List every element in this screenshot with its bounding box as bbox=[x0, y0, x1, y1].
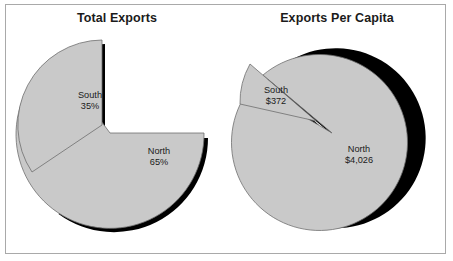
pie-chart-total-exports: South 35% North 65% bbox=[8, 0, 226, 261]
chart-panel-exports-per-capita: Exports Per Capita South $372 North $4,0… bbox=[226, 0, 448, 261]
figure-canvas: Total Exports South 35% North 65% Export… bbox=[0, 0, 453, 261]
chart-panel-total-exports: Total Exports South 35% North 65% bbox=[8, 0, 226, 261]
pie-label-north-name-exports-per-capita: North bbox=[348, 144, 370, 154]
pie-label-north-value-total-exports: 65% bbox=[150, 157, 168, 167]
pie-label-south-name-exports-per-capita: South bbox=[264, 85, 288, 95]
pie-label-south-name-total-exports: South bbox=[78, 90, 102, 100]
pie-chart-exports-per-capita: South $372 North $4,026 bbox=[226, 0, 448, 261]
pie-label-south-value-total-exports: 35% bbox=[81, 101, 99, 111]
pie-label-north-value-exports-per-capita: $4,026 bbox=[345, 155, 373, 165]
pie-label-north-name-total-exports: North bbox=[148, 146, 170, 156]
pie-label-south-value-exports-per-capita: $372 bbox=[266, 96, 286, 106]
